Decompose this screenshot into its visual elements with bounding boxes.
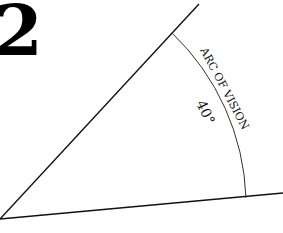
angle-label: 40° (193, 98, 218, 127)
upper-ray (0, 4, 199, 219)
lower-ray (0, 193, 283, 219)
arc-of-vision-diagram: ARC OF VISION 40° (0, 0, 283, 233)
